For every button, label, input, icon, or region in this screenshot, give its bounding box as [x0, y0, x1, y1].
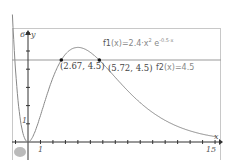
- graph-menu-icon[interactable]: [14, 147, 26, 157]
- y-tick-1-label: 1: [22, 116, 27, 125]
- x-tick-15-label: 15: [206, 145, 216, 154]
- x-tick-1-label: 1: [38, 145, 43, 154]
- f2-label[interactable]: f2(x)=4.5: [156, 63, 194, 72]
- f1-curve[interactable]: [12, 15, 217, 143]
- graph-canvas[interactable]: [0, 0, 233, 160]
- f1-label[interactable]: f1(x)=2.4·x2 e-0.5·x: [103, 37, 174, 48]
- axis-ticks: [16, 33, 216, 144]
- y-tick-6-label: 6: [20, 30, 25, 39]
- point-1-label: (2.67, 4.5): [60, 61, 104, 71]
- x-axis-arrow-icon: [219, 139, 223, 145]
- x-axis-label: x: [214, 132, 219, 141]
- point-2-label: (5.72, 4.5): [108, 63, 152, 73]
- y-axis-label: y: [31, 30, 36, 39]
